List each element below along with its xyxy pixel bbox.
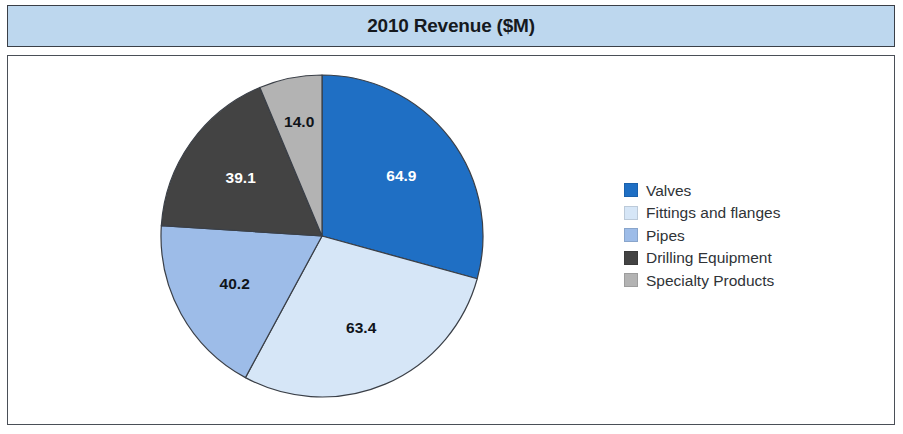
pie-label-fittings-and-flanges: 63.4 — [346, 319, 377, 336]
pipes-swatch — [624, 228, 638, 242]
pie-label-drilling-equipment: 39.1 — [226, 169, 257, 186]
pie-label-pipes: 40.2 — [220, 275, 250, 292]
legend-item-specialty-products[interactable]: Specialty Products — [624, 269, 874, 292]
drilling-equipment-swatch — [624, 251, 638, 265]
legend-label: Pipes — [646, 228, 685, 244]
pie-plot-area: 64.963.440.239.114.0 — [8, 56, 568, 424]
legend-item-fittings-and-flanges[interactable]: Fittings and flanges — [624, 202, 874, 225]
chart-page: 2010 Revenue ($M) 64.963.440.239.114.0 V… — [0, 0, 903, 434]
fittings-and-flanges-swatch — [624, 206, 638, 220]
legend-label: Fittings and flanges — [646, 205, 780, 221]
pie-chart: 64.963.440.239.114.0 — [8, 56, 568, 424]
specialty-products-swatch — [624, 273, 638, 287]
chart-title-bar: 2010 Revenue ($M) — [7, 5, 895, 47]
legend-label: Specialty Products — [646, 273, 774, 289]
chart-legend: ValvesFittings and flangesPipesDrilling … — [624, 179, 874, 292]
page-title: 2010 Revenue ($M) — [367, 15, 535, 37]
legend-item-valves[interactable]: Valves — [624, 179, 874, 202]
pie-label-specialty-products: 14.0 — [284, 113, 314, 130]
legend-item-pipes[interactable]: Pipes — [624, 224, 874, 247]
pie-slices-group — [161, 75, 483, 397]
valves-swatch — [624, 183, 638, 197]
legend-label: Drilling Equipment — [646, 250, 772, 266]
legend-item-drilling-equipment[interactable]: Drilling Equipment — [624, 247, 874, 270]
pie-label-valves: 64.9 — [386, 167, 417, 184]
chart-frame: 64.963.440.239.114.0 ValvesFittings and … — [7, 55, 895, 425]
legend-label: Valves — [646, 183, 691, 199]
